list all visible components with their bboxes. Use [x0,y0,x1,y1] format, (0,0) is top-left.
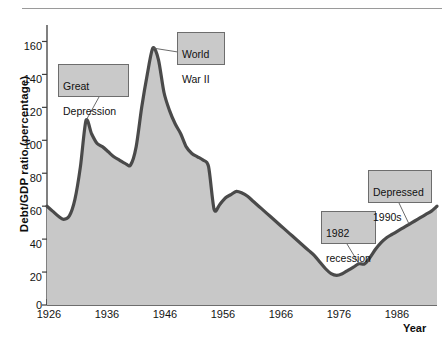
annotation-depressed-1990s: Depressed 1990s [368,170,432,203]
y-tick-marks [42,41,47,305]
annotation-line-2: 1990s [373,211,402,223]
annotation-world-war-ii: World War II [177,32,225,65]
annotation-line-2: War II [182,73,210,85]
annotation-line-1: 1982 [326,227,349,239]
chart-figure: Debt/GDP ratio (percentage) 160 140 120 … [0,0,447,338]
annotation-line-1: World [182,48,209,60]
annotation-1982-recession: 1982 recession [321,211,376,244]
annotation-great-depression: Great Depression [58,64,129,97]
annotation-line-1: Depressed [373,186,424,198]
annotation-line-2: Depression [63,105,116,117]
annotation-line-1: Great [63,80,89,92]
annotation-line-2: recession [326,252,371,264]
